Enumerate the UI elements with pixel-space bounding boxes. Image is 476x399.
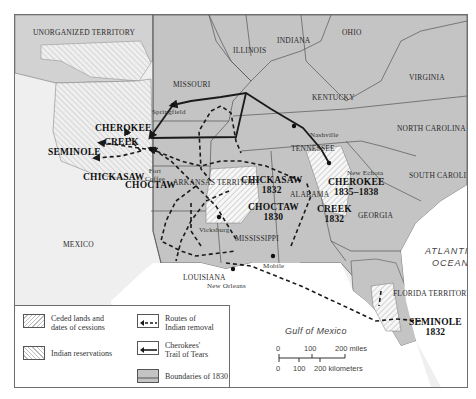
legend-ceded-line1: Ceded lands and: [51, 314, 105, 323]
scale-km-100: 100: [293, 364, 306, 373]
scale-miles-200: 200 miles: [335, 344, 367, 353]
label-gulf-of-mexico: Gulf of Mexico: [285, 326, 347, 338]
cession-chickasaw-year: 1832: [241, 186, 302, 196]
label-cession-creek: CREEK 1832: [317, 205, 352, 225]
atlantic-line1: ATLANTIC: [425, 246, 468, 258]
label-virginia: VIRGINIA: [409, 74, 445, 82]
label-reservation-choctaw: CHOCTAW: [125, 181, 176, 191]
solid-arrow-icon: [137, 341, 159, 355]
label-illinois: ILLINOIS: [233, 47, 266, 55]
scale-km-200: 200 kilometers: [314, 364, 363, 373]
map-legend: Ceded lands and dates of cessions Indian…: [14, 305, 230, 388]
legend-trail-line1: Cherokees': [165, 341, 208, 350]
cession-cherokee-year: 1835–1838: [328, 188, 385, 198]
label-mobile: Mobile: [263, 263, 284, 270]
label-cession-cherokee: CHEROKEE 1835–1838: [328, 178, 385, 198]
legend-routes-line1: Routes of: [165, 314, 214, 323]
label-reservation-seminole: SEMINOLE: [48, 148, 101, 158]
boundary-swatch-icon: [137, 369, 159, 383]
label-mexico: MEXICO: [63, 241, 94, 249]
label-reservation-cherokee: CHEROKEE: [95, 124, 152, 134]
label-cession-seminole: SEMINOLE 1832: [409, 318, 462, 338]
scale-miles-0: 0: [276, 344, 280, 353]
label-tennessee: TENNESSEE: [291, 145, 335, 153]
legend-trail-line2: Trail of Tears: [165, 350, 208, 359]
label-florida-territory: FLORIDA TERRITORY: [393, 290, 468, 298]
cession-creek-year: 1832: [317, 215, 352, 225]
label-atlantic-ocean: ATLANTIC OCEAN: [425, 246, 468, 269]
legend-reservations-label: Indian reservations: [51, 346, 112, 358]
label-kentucky: KENTUCKY: [312, 94, 355, 102]
dashed-route-icon: [137, 314, 159, 328]
label-south-carolina: SOUTH CAROLINA: [409, 171, 468, 180]
cession-seminole-year: 1832: [409, 328, 462, 338]
label-louisiana: LOUISIANA: [183, 274, 226, 282]
label-indiana: INDIANA: [277, 37, 310, 45]
legend-ceded-lands: Ceded lands and dates of cessions: [23, 314, 105, 332]
legend-routes-line2: Indian removal: [165, 323, 214, 332]
label-north-carolina: NORTH CAROLINA: [397, 125, 466, 133]
legend-ceded-line2: dates of cessions: [51, 323, 105, 332]
legend-trail-of-tears: Cherokees' Trail of Tears: [137, 341, 208, 359]
reservations-swatch-icon: [23, 346, 45, 360]
atlantic-line2: OCEAN: [425, 258, 468, 270]
legend-boundaries-label: Boundaries of 1830: [165, 369, 228, 381]
label-cession-choctaw: CHOCTAW 1830: [248, 203, 299, 223]
label-nashville: Nashville: [310, 132, 339, 139]
legend-removal-routes: Routes of Indian removal: [137, 314, 214, 332]
ceded-lands-swatch-icon: [23, 314, 45, 328]
label-new-echota: New Echota: [347, 170, 383, 177]
label-georgia: GEORGIA: [358, 212, 393, 220]
scale-ruler: [278, 354, 348, 364]
cession-choctaw-year: 1830: [248, 213, 299, 223]
label-unorganized-territory: UNORGANIZED TERRITORY: [33, 29, 135, 37]
label-new-orleans: New Orleans: [207, 283, 246, 290]
legend-indian-reservations: Indian reservations: [23, 346, 112, 360]
label-missouri: MISSOURI: [173, 81, 210, 89]
label-vicksburg: Vicksburg: [199, 227, 229, 234]
label-reservation-creek: CREEK: [104, 138, 139, 148]
label-cession-chickasaw: CHICKASAW 1832: [241, 176, 302, 196]
scale-km-0: 0: [276, 364, 280, 373]
label-mississippi: MISSISSIPPI: [235, 235, 279, 243]
label-ohio: OHIO: [342, 29, 362, 37]
label-springfield: Springfield: [152, 109, 186, 116]
legend-boundaries: Boundaries of 1830: [137, 369, 228, 383]
scale-miles-100: 100: [304, 344, 317, 353]
